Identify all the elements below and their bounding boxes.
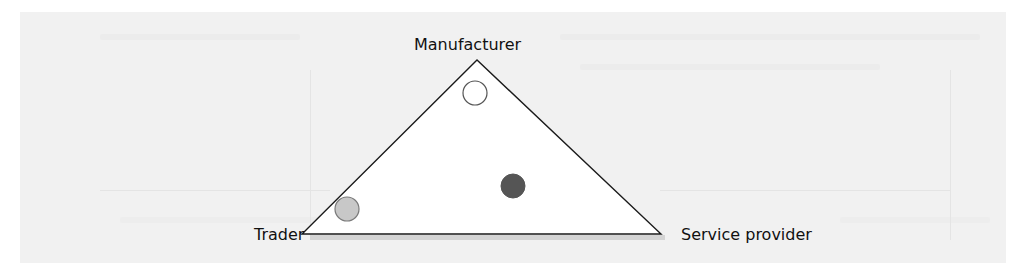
marker-light-gray-circle-icon — [335, 197, 359, 221]
marker-filled-dark-circle-icon — [501, 174, 525, 198]
vertex-label-service-provider: Service provider — [681, 227, 812, 243]
vertex-label-trader: Trader — [254, 227, 304, 243]
vertex-label-manufacturer: Manufacturer — [414, 37, 521, 53]
marker-open-circle-icon — [463, 81, 487, 105]
triangle-base-shadow — [310, 235, 665, 240]
